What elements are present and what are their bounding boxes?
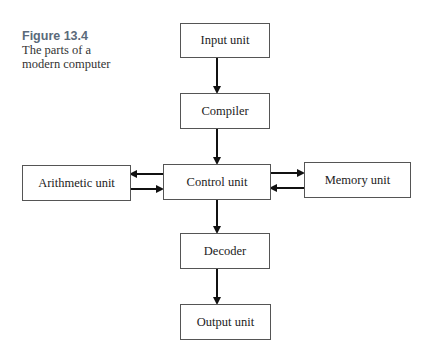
node-memory-unit: Memory unit <box>304 162 411 198</box>
node-compiler-label: Compiler <box>201 104 248 119</box>
node-decoder-label: Decoder <box>204 244 246 259</box>
node-output-unit-label: Output unit <box>197 315 254 330</box>
node-control-unit-label: Control unit <box>187 175 248 190</box>
node-input-unit: Input unit <box>180 23 270 58</box>
node-compiler: Compiler <box>180 93 270 129</box>
node-decoder: Decoder <box>180 233 270 269</box>
node-arithmetic-unit-label: Arithmetic unit <box>38 176 115 191</box>
node-memory-unit-label: Memory unit <box>325 173 391 188</box>
node-output-unit: Output unit <box>180 304 271 340</box>
node-arithmetic-unit: Arithmetic unit <box>22 165 131 201</box>
node-control-unit: Control unit <box>163 164 271 200</box>
node-input-unit-label: Input unit <box>201 33 250 48</box>
